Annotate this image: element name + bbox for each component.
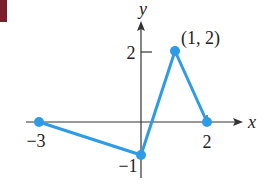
- point-annotation: (1, 2): [181, 28, 220, 49]
- data-point: [170, 46, 180, 56]
- x-tick-label-2: 2: [203, 132, 212, 152]
- x-tick-label-neg3: −3: [26, 131, 45, 151]
- y-tick-label-2: 2: [127, 43, 136, 63]
- data-point: [34, 117, 44, 127]
- y-tick-label-neg1: −1: [118, 156, 137, 176]
- x-axis-label: x: [247, 112, 256, 132]
- data-line: [39, 51, 207, 155]
- data-point: [202, 117, 212, 127]
- chart: y x 2 −1 −3 2 (1, 2): [0, 0, 263, 185]
- y-axis-label: y: [137, 0, 147, 19]
